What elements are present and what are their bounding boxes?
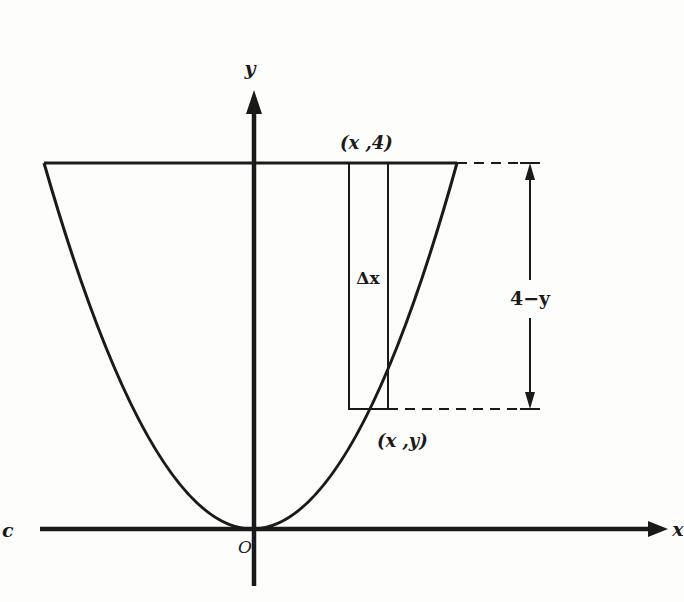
x-axis [40, 521, 668, 537]
dimension-up-arrow-icon [525, 163, 535, 180]
x-axis-label: x [671, 518, 684, 540]
x-axis-arrow-icon [648, 521, 668, 537]
left-edge-fragment-label: c [2, 519, 14, 541]
parabola-area-diagram: y x c O (x ,4) (x ,y) Δx 4−y [0, 0, 684, 602]
height-dimension [520, 163, 540, 409]
diagram-canvas: y x c O (x ,4) (x ,y) Δx 4−y [0, 0, 684, 602]
curve-point-label: (x ,y) [377, 430, 428, 451]
strip-width-label: Δx [356, 268, 380, 288]
height-dimension-label: 4−y [510, 287, 551, 309]
y-axis-arrow-icon [246, 90, 262, 114]
origin-label: O [238, 537, 252, 557]
dimension-down-arrow-icon [525, 392, 535, 409]
parabola-curve [44, 163, 457, 529]
y-axis-label: y [243, 57, 257, 79]
top-point-label: (x ,4) [340, 132, 393, 153]
